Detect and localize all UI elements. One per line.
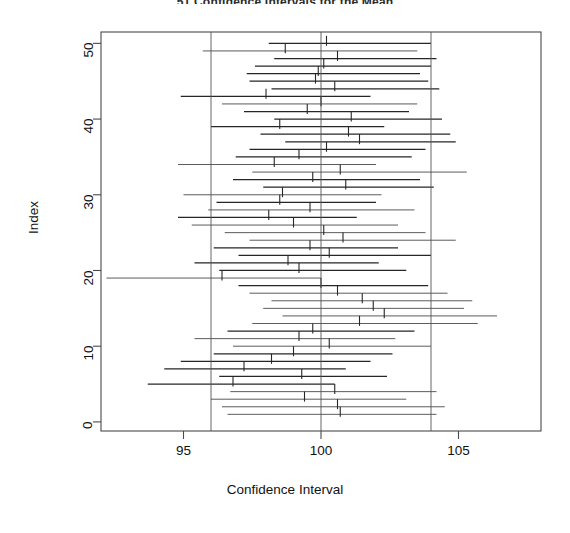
confidence-interval — [252, 164, 467, 174]
confidence-interval — [272, 293, 473, 303]
axis-tick-layer — [93, 43, 459, 439]
confidence-interval — [250, 142, 426, 152]
confidence-interval — [272, 81, 440, 91]
y-tick-label: 30 — [81, 194, 96, 209]
confidence-interval — [211, 392, 406, 402]
confidence-interval — [244, 104, 409, 114]
y-tick-label: 50 — [81, 43, 96, 58]
confidence-interval — [148, 376, 335, 386]
confidence-interval — [274, 51, 436, 61]
confidence-interval — [228, 407, 437, 417]
confidence-interval — [263, 301, 464, 311]
y-tick-label: 20 — [81, 270, 96, 285]
x-tick-label: 100 — [310, 443, 333, 458]
confidence-interval — [233, 339, 431, 349]
confidence-interval — [195, 331, 396, 341]
confidence-interval — [164, 361, 346, 371]
confidence-interval — [239, 248, 432, 258]
confidence-interval — [192, 217, 398, 227]
y-tick-label: 10 — [81, 346, 96, 361]
x-axis-label: Confidence Interval — [0, 482, 570, 497]
confidence-interval — [178, 210, 357, 220]
confidence-interval — [252, 316, 478, 326]
confidence-interval — [250, 74, 429, 84]
confidence-interval — [181, 354, 371, 364]
confidence-interval — [184, 187, 382, 197]
confidence-interval — [195, 255, 379, 265]
y-tick-label: 40 — [81, 119, 96, 134]
confidence-interval — [203, 43, 418, 53]
x-tick-label: 95 — [176, 443, 191, 458]
confidence-interval — [274, 111, 442, 121]
confidence-interval — [230, 384, 436, 394]
confidence-interval — [178, 157, 376, 167]
confidence-interval — [219, 263, 406, 273]
confidence-interval — [211, 119, 384, 129]
confidence-interval — [214, 240, 398, 250]
interval-layer — [107, 36, 498, 417]
confidence-interval — [285, 134, 456, 144]
confidence-interval — [233, 172, 420, 182]
confidence-interval — [269, 36, 431, 46]
confidence-interval — [225, 225, 426, 235]
confidence-interval — [250, 233, 456, 243]
confidence-interval — [283, 308, 498, 318]
x-tick-label: 105 — [447, 443, 470, 458]
y-axis-label: Index — [26, 178, 41, 258]
confidence-interval — [208, 202, 414, 212]
plot-canvas — [0, 0, 570, 533]
confidence-interval — [261, 127, 451, 137]
confidence-interval — [217, 195, 377, 205]
confidence-interval — [236, 149, 412, 159]
confidence-interval — [247, 66, 420, 76]
confidence-interval-plot: 51 Confidence Intervals for the Mean 951… — [0, 0, 570, 533]
confidence-interval — [222, 96, 417, 106]
confidence-interval — [250, 286, 448, 296]
confidence-interval — [181, 89, 371, 99]
confidence-interval — [255, 58, 431, 68]
confidence-interval — [222, 399, 445, 409]
confidence-interval — [239, 278, 429, 288]
confidence-interval — [263, 180, 434, 190]
confidence-interval — [107, 270, 322, 280]
y-tick-label: 0 — [81, 421, 96, 429]
confidence-interval — [214, 346, 393, 356]
